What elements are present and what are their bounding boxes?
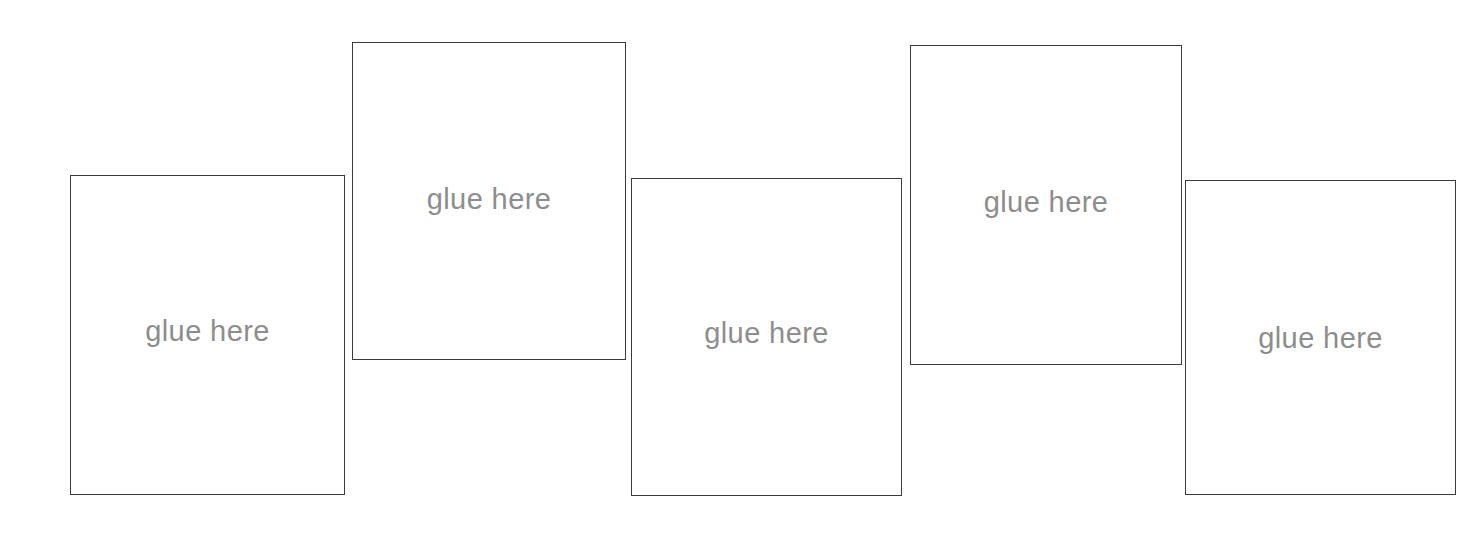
glue-box-2-label: glue here: [353, 185, 625, 214]
glue-box-3[interactable]: glue here: [631, 178, 902, 496]
glue-box-1[interactable]: glue here: [70, 175, 345, 495]
glue-box-4-label: glue here: [911, 188, 1181, 217]
glue-box-5[interactable]: glue here: [1185, 180, 1456, 495]
template-canvas: glue here glue here glue here glue here …: [0, 0, 1465, 533]
glue-box-2[interactable]: glue here: [352, 42, 626, 360]
glue-box-1-label: glue here: [71, 317, 344, 346]
glue-box-4[interactable]: glue here: [910, 45, 1182, 365]
glue-box-3-label: glue here: [632, 319, 901, 348]
glue-box-5-label: glue here: [1186, 324, 1455, 353]
